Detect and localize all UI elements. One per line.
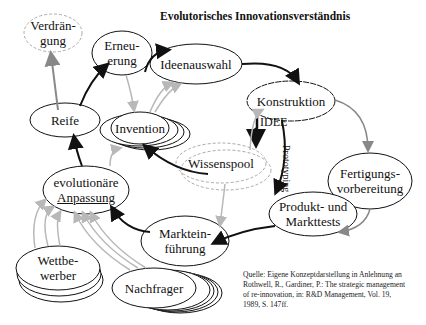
verdraengung-label: Verdrän- gung xyxy=(24,18,82,48)
source-citation: Quelle: Eigene Konzeptdarstellung in Anl… xyxy=(243,270,426,310)
fertigung-label: Fertigungs- vorbereitung xyxy=(328,166,412,196)
diagram-title: Evolutorisches Innovationsverständnis xyxy=(160,10,350,22)
evolutionaere-label: evolutionäre Anpassung xyxy=(43,175,129,205)
invention-label: Invention xyxy=(111,121,169,136)
reife-label: Reife xyxy=(30,113,100,128)
nachfrager-label: Nachfrager xyxy=(112,281,196,296)
markteinfuehrung-label: Marktein- führung xyxy=(141,226,229,256)
wettbewerber-label: Wettbe- werber xyxy=(16,253,100,283)
erneuerung-label: Erneu- erung xyxy=(92,38,152,68)
idee-label: IDEE xyxy=(260,115,287,130)
wissenspool-label: Wissenspool xyxy=(180,156,262,171)
prototyping-label: Prototyping xyxy=(281,145,292,192)
konstruktion-label: Konstruktion xyxy=(247,94,335,109)
ideenauswahl-label: Ideenauswahl xyxy=(150,57,242,72)
produkt-label: Produkt- und Markttests xyxy=(269,199,357,229)
